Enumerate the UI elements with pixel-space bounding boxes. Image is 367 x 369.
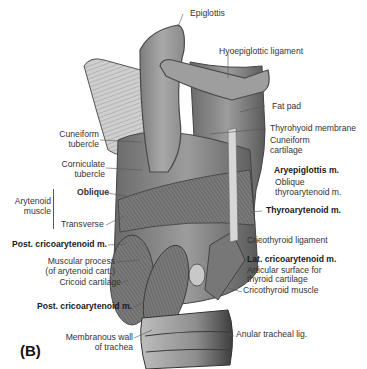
label-articular-surface-2: thyroid cartilage: [247, 275, 308, 285]
epiglottis-shape: [140, 25, 184, 172]
trachea: [141, 310, 233, 369]
label-transverse: Transverse: [61, 220, 104, 230]
label-thyroarytenoid: Thyroarytenoid m.: [266, 206, 341, 216]
label-epiglottis: Epiglottis: [190, 9, 225, 19]
label-cuneiform-tubercle-2: tubercle: [68, 140, 99, 150]
label-oblique: Oblique: [77, 188, 109, 198]
label-hyoepiglottic-ligament: Hyoepiglottic ligament: [219, 47, 303, 57]
label-membranous-wall-2: of trachea: [95, 343, 133, 353]
label-post-cricoarytenoid-2: Post. cricoarytenoid m.: [37, 302, 132, 312]
label-cricothyroid-ligament: Cricothyroid ligament: [247, 236, 328, 246]
label-arytenoid-muscle-2: muscle: [24, 207, 51, 217]
label-corniculate-tubercle-2: tubercle: [74, 170, 105, 180]
arytenoid-brace: [53, 189, 58, 229]
label-cuneiform-cartilage-2: cartilage: [270, 146, 302, 156]
panel-label: (B): [20, 342, 41, 359]
label-anular-tracheal: Anular tracheal lig.: [236, 330, 307, 340]
label-oblique-thyroarytenoid-2: thyroarytenoid m.: [275, 188, 341, 198]
label-cricothyroid-muscle: Cricothyroid muscle: [243, 286, 318, 296]
label-lat-cricoarytenoid: Lat. cricoarytenoid m.: [247, 255, 336, 265]
larynx-illustration: [0, 0, 367, 369]
label-aryepiglottis: Aryepiglottis m.: [274, 166, 339, 176]
articular-surface: [189, 264, 205, 286]
label-muscular-process-2: (of arytenoid cart.): [45, 267, 115, 277]
label-fat-pad: Fat pad: [272, 102, 301, 112]
label-post-cricoarytenoid-1: Post. cricoarytenoid m.: [12, 240, 107, 250]
label-cricoid-cartilage: Cricoid cartilage: [59, 278, 121, 288]
label-thyrohyoid-membrane: Thyrohyoid membrane: [270, 124, 356, 134]
